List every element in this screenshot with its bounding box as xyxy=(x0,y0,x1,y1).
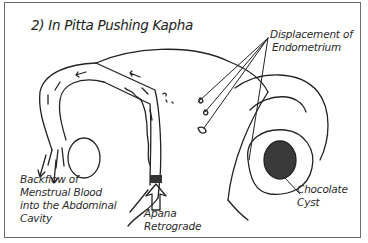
label-apana-line2: Retrograde xyxy=(144,220,201,233)
uterus-fundus xyxy=(96,49,268,92)
left-tube-outer xyxy=(40,63,96,150)
left-cavity-wall xyxy=(104,82,151,185)
left-tube-inner xyxy=(59,80,104,140)
label-cyst-line2: Cyst xyxy=(297,196,319,209)
displacement-pointer-lines xyxy=(198,38,268,160)
label-backflow-line1: Backflow of xyxy=(20,173,78,186)
label-displacement-line1: Displacement of xyxy=(270,28,353,41)
diagram-title: 2) In Pitta Pushing Kapha xyxy=(31,17,193,33)
label-apana-line1: Apana xyxy=(144,207,176,220)
right-canal-line xyxy=(228,200,248,220)
endometrium-lining xyxy=(125,88,150,165)
label-cyst-line1: Chocolate xyxy=(297,183,348,196)
label-backflow-line3: into the Abdominal xyxy=(20,199,117,212)
right-uterine-wall xyxy=(228,92,268,200)
label-backflow-line4: Cavity xyxy=(20,212,52,225)
left-ovary xyxy=(68,138,100,178)
chocolate-cyst-shape xyxy=(264,141,296,179)
label-displacement-line2: Endometrium xyxy=(272,41,341,54)
label-backflow-line2: Menstrual Blood xyxy=(20,186,102,199)
